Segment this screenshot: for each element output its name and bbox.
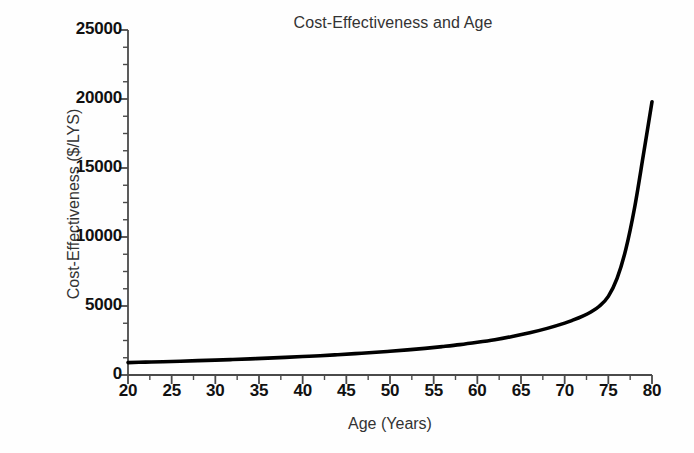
- chart-title: Cost-Effectiveness and Age: [243, 14, 543, 32]
- y-tick-label: 15000: [30, 157, 122, 177]
- y-tick-label: 10000: [30, 226, 122, 246]
- x-tick-label: 75: [585, 381, 631, 401]
- chart-figure: Cost-Effectiveness and Age Cost-Effectiv…: [0, 0, 694, 453]
- x-tick-label: 45: [323, 381, 369, 401]
- x-tick-label: 50: [367, 381, 413, 401]
- x-tick-label: 80: [629, 381, 675, 401]
- x-tick-label: 65: [498, 381, 544, 401]
- x-tick-label: 30: [192, 381, 238, 401]
- y-tick-label: 25000: [30, 19, 122, 39]
- data-series-line: [128, 102, 652, 363]
- x-tick-label: 40: [280, 381, 326, 401]
- y-tick-label: 5000: [30, 295, 122, 315]
- x-tick-label: 70: [542, 381, 588, 401]
- x-axis-title: Age (Years): [290, 415, 490, 433]
- x-tick-label: 25: [149, 381, 195, 401]
- y-tick-label: 20000: [30, 88, 122, 108]
- x-tick-label: 35: [236, 381, 282, 401]
- x-tick-label: 60: [454, 381, 500, 401]
- x-tick-label: 20: [105, 381, 151, 401]
- x-tick-label: 55: [411, 381, 457, 401]
